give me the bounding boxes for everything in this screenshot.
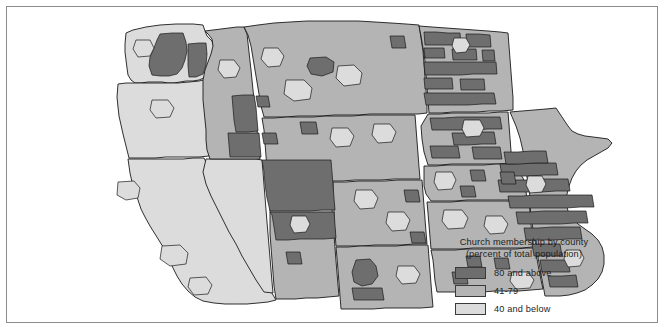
county-low-nm-1 (396, 266, 420, 284)
legend-item-high: 80 and above (455, 264, 624, 282)
legend-title-line1: Church membership by county (424, 236, 624, 248)
county-cluster-nd-3 (424, 48, 445, 58)
county-cluster-nd-9 (424, 93, 496, 105)
legend-swatch-low (455, 303, 486, 315)
county-cluster-mt-4 (262, 133, 278, 144)
county-cluster-nd-7 (424, 78, 453, 89)
legend-items-list: 80 and above 41-79 40 and below (455, 264, 624, 318)
county-low-ks-1 (442, 210, 468, 229)
county-cluster-mt-1 (307, 57, 334, 76)
state-montana (244, 21, 427, 117)
county-cluster-ne-2 (500, 172, 516, 184)
county-low-ne-1 (434, 172, 456, 190)
county-cluster-nd-5 (482, 50, 495, 61)
county-low-mn-1 (526, 176, 546, 193)
legend-title-line2: (percent of total population) (424, 248, 624, 260)
county-cluster-nm-2 (352, 288, 384, 300)
county-low-ca-1 (117, 181, 140, 200)
county-low-sd-1 (462, 120, 484, 137)
county-cluster-ia-4 (516, 211, 588, 224)
legend-swatch-medium (455, 285, 486, 297)
county-cluster-ne-1 (470, 170, 486, 181)
county-cluster-ne-3 (460, 186, 476, 197)
legend-item-low: 40 and below (455, 300, 624, 318)
county-cluster-mt-2 (390, 36, 406, 48)
county-cluster-idaho-east (232, 95, 258, 132)
county-cluster-wy-1 (300, 122, 318, 134)
county-low-wy-2 (372, 124, 396, 143)
county-low-ca-3 (188, 277, 212, 295)
county-low-wa-1 (133, 40, 154, 57)
county-cluster-utah (262, 160, 335, 211)
county-low-or-1 (150, 100, 174, 118)
county-cluster-mn-south (504, 151, 548, 164)
county-low-wy-1 (330, 128, 354, 147)
county-cluster-mt-3 (256, 96, 270, 107)
county-cluster-sd-4 (472, 147, 502, 159)
county-low-az-1 (290, 216, 310, 233)
county-low-co-2 (386, 212, 410, 231)
county-cluster-ia-3 (508, 195, 594, 208)
legend-label-high: 80 and above (494, 268, 552, 278)
county-cluster-nd-8 (460, 79, 485, 90)
legend-item-medium: 41-79 (455, 282, 624, 300)
map-legend: Church membership by county (percent of … (424, 236, 624, 320)
legend-label-medium: 41-79 (494, 286, 518, 296)
legend-swatch-high (455, 267, 486, 279)
legend-label-low: 40 and below (494, 304, 550, 314)
county-low-ks-2 (484, 216, 508, 234)
state-oregon (117, 80, 217, 158)
county-cluster-az-1 (286, 252, 302, 264)
county-cluster-nd-6 (424, 62, 497, 75)
county-low-co-1 (354, 190, 378, 209)
county-cluster-co-1 (404, 190, 420, 202)
county-cluster-idaho-south (228, 133, 261, 157)
county-cluster-sd-3 (430, 146, 460, 158)
figure-container: Church membership by county (percent of … (0, 0, 666, 331)
